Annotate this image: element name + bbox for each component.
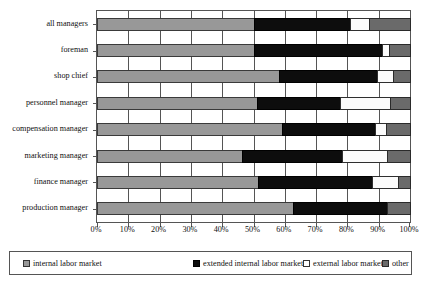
y-axis-tick: [93, 182, 97, 183]
stacked-bar-chart: all managersforemanshop chiefpersonnel m…: [0, 0, 423, 284]
y-axis-tick: [93, 51, 97, 52]
bar-segment-extended-internal-labor-market: [293, 202, 389, 215]
legend-item[interactable]: other: [382, 259, 409, 268]
y-axis-category-label: production manager: [22, 201, 88, 214]
bar-row: [97, 150, 410, 163]
legend-item[interactable]: external labor market: [303, 259, 383, 268]
x-axis-tick-label: 20%: [151, 224, 166, 235]
bar-row: [97, 123, 410, 136]
gridline: [254, 11, 255, 222]
x-axis-tick-label: 10%: [120, 224, 135, 235]
x-axis-tick-label: 60%: [276, 224, 291, 235]
y-axis-tick: [93, 77, 97, 78]
bar-segment-external-labor-market: [377, 70, 394, 83]
plot-area: [96, 10, 411, 223]
legend-label: extended internal labor market: [203, 259, 303, 268]
bar-segment-other: [387, 202, 411, 215]
y-axis-tick: [93, 130, 97, 131]
y-axis-category-label: foreman: [61, 43, 88, 56]
swatch-extended-icon: [193, 260, 200, 267]
swatch-internal-icon: [23, 260, 30, 267]
bar-segment-external-labor-market: [372, 176, 399, 189]
x-axis-tick-label: 30%: [182, 224, 197, 235]
legend-label: external labor market: [313, 259, 383, 268]
x-axis-tick-label: 50%: [245, 224, 260, 235]
gridline: [128, 11, 129, 222]
bar-segment-other: [387, 150, 411, 163]
swatch-external-icon: [303, 260, 310, 267]
bar-segment-internal-labor-market: [97, 123, 283, 136]
legend-item[interactable]: extended internal labor market: [193, 259, 303, 268]
bar-row: [97, 18, 410, 31]
bar-segment-external-labor-market: [350, 18, 370, 31]
x-axis-tick-label: 40%: [214, 224, 229, 235]
y-axis-category-label: personnel manager: [26, 96, 88, 109]
bar-segment-extended-internal-labor-market: [279, 70, 378, 83]
x-axis-tick-label: 70%: [308, 224, 323, 235]
bar-segment-internal-labor-market: [97, 150, 243, 163]
chart-legend: internal labor marketextended internal l…: [9, 251, 412, 275]
legend-item[interactable]: internal labor market: [23, 259, 102, 268]
bar-segment-other: [398, 176, 411, 189]
gridline: [191, 11, 192, 222]
bar-row: [97, 97, 410, 110]
gridline: [347, 11, 348, 222]
bar-segment-extended-internal-labor-market: [242, 150, 343, 163]
bar-segment-internal-labor-market: [97, 44, 255, 57]
gridline: [160, 11, 161, 222]
bar-segment-extended-internal-labor-market: [254, 44, 383, 57]
bar-segment-other: [369, 18, 411, 31]
swatch-other-icon: [382, 260, 389, 267]
y-axis-category-label: finance manager: [34, 175, 88, 188]
bar-segment-external-labor-market: [342, 150, 388, 163]
x-axis-tick-label: 80%: [339, 224, 354, 235]
bar-segment-internal-labor-market: [97, 70, 280, 83]
bar-segment-extended-internal-labor-market: [258, 176, 373, 189]
bar-segment-other: [386, 123, 411, 136]
legend-label: other: [392, 259, 409, 268]
x-axis-tick-labels: 0%10%20%30%40%50%60%70%80%90%100%: [96, 224, 409, 238]
gridline: [285, 11, 286, 222]
bar-segment-internal-labor-market: [97, 18, 255, 31]
gridline: [222, 11, 223, 222]
bar-row: [97, 70, 410, 83]
gridline: [316, 11, 317, 222]
y-axis-tick: [93, 24, 97, 25]
bar-segment-other: [393, 70, 411, 83]
y-axis-category-label: all managers: [46, 17, 88, 30]
bar-segment-other: [390, 97, 411, 110]
bar-segment-internal-labor-market: [97, 202, 294, 215]
bar-segment-extended-internal-labor-market: [254, 18, 351, 31]
bar-row: [97, 202, 410, 215]
y-axis-category-label: marketing manager: [25, 149, 88, 162]
x-axis-tick-label: 90%: [370, 224, 385, 235]
y-axis-category-label: shop chief: [54, 69, 88, 82]
x-axis-tick-label: 100%: [399, 224, 418, 235]
bar-segment-extended-internal-labor-market: [257, 97, 342, 110]
bar-row: [97, 176, 410, 189]
bar-segment-internal-labor-market: [97, 97, 258, 110]
bar-segment-extended-internal-labor-market: [282, 123, 376, 136]
gridline: [379, 11, 380, 222]
y-axis-category-label: compensation manager: [12, 122, 88, 135]
y-axis-category-labels: all managersforemanshop chiefpersonnel m…: [0, 10, 92, 221]
y-axis-tick: [93, 209, 97, 210]
bar-row: [97, 44, 410, 57]
legend-items: internal labor marketextended internal l…: [10, 252, 411, 274]
bar-segment-external-labor-market: [340, 97, 391, 110]
bar-segment-internal-labor-market: [97, 176, 259, 189]
x-axis-tick-label: 0%: [91, 224, 102, 235]
bar-segment-other: [389, 44, 411, 57]
legend-label: internal labor market: [33, 259, 102, 268]
y-axis-tick: [93, 156, 97, 157]
y-axis-tick: [93, 103, 97, 104]
